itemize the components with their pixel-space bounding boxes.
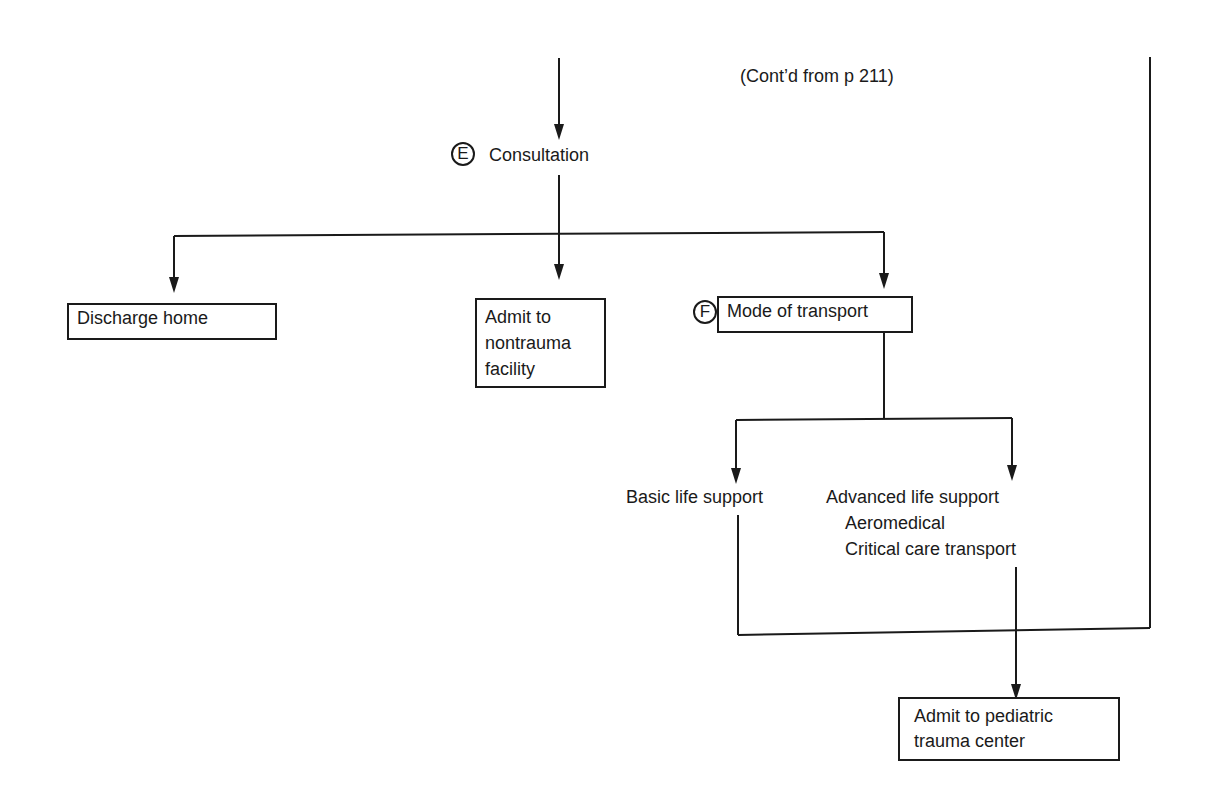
admit-nontrauma-line-3: facility xyxy=(485,356,596,382)
basic-life-support-label: Basic life support xyxy=(626,486,763,508)
step-marker-e-icon: E xyxy=(451,142,475,166)
als-sub-item-critical-care: Critical care transport xyxy=(845,538,1016,560)
admit-pediatric-line-2: trauma center xyxy=(914,729,1110,754)
advanced-life-support-label: Advanced life support xyxy=(826,486,999,508)
admit-pediatric-line-1: Admit to pediatric xyxy=(914,704,1110,729)
mode-of-transport-label: Mode of transport xyxy=(727,301,868,321)
admit-nontrauma-box: Admit to nontrauma facility xyxy=(475,298,606,388)
admit-pediatric-box: Admit to pediatric trauma center xyxy=(898,697,1120,761)
mode-of-transport-box: Mode of transport xyxy=(717,296,913,333)
admit-nontrauma-line-1: Admit to xyxy=(485,304,596,330)
step-marker-f-icon: F xyxy=(693,300,717,324)
flowchart-connectors xyxy=(0,0,1214,797)
admit-nontrauma-line-2: nontrauma xyxy=(485,330,596,356)
discharge-home-label: Discharge home xyxy=(77,308,208,328)
continuation-note: (Cont’d from p 211) xyxy=(740,65,894,87)
discharge-home-box: Discharge home xyxy=(67,303,277,340)
consultation-label: Consultation xyxy=(489,144,589,166)
als-sub-item-aeromedical: Aeromedical xyxy=(845,512,945,534)
